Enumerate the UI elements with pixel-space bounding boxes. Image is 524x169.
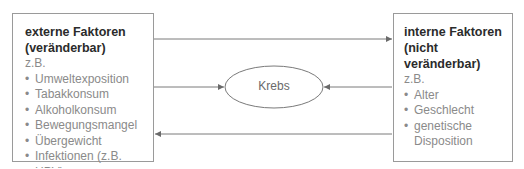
list-item: genetische Disposition xyxy=(404,119,494,150)
list-item: Tabakkonsum xyxy=(25,87,153,103)
list-item: Umweltexposition xyxy=(25,72,153,88)
list-item: Alkoholkonsum xyxy=(25,103,153,119)
list-item: Bewegungsmangel xyxy=(25,118,153,134)
list-item: Infektionen (z.B. HPV) xyxy=(25,149,153,168)
list-item: Alter xyxy=(404,88,512,104)
external-example-label: z.B. xyxy=(25,56,153,72)
external-factors-list: Umweltexposition Tabakkonsum Alkoholkons… xyxy=(25,72,153,169)
internal-factors-list: Alter Geschlecht genetische Disposition xyxy=(404,88,512,150)
internal-title-line2: (nicht veränderbar) xyxy=(404,40,512,72)
external-title-line1: externe Faktoren xyxy=(25,24,153,40)
external-factors-box: externe Faktoren (veränderbar) z.B. Umwe… xyxy=(12,13,154,162)
list-item: Geschlecht xyxy=(404,103,512,119)
internal-title-line1: interne Faktoren xyxy=(404,24,512,40)
external-title-line2: (veränderbar) xyxy=(25,40,153,56)
internal-example-label: z.B. xyxy=(404,72,512,88)
cancer-label: Krebs xyxy=(226,79,322,93)
list-item: Übergewicht xyxy=(25,134,153,150)
internal-factors-box: interne Faktoren (nicht veränderbar) z.B… xyxy=(393,13,513,162)
